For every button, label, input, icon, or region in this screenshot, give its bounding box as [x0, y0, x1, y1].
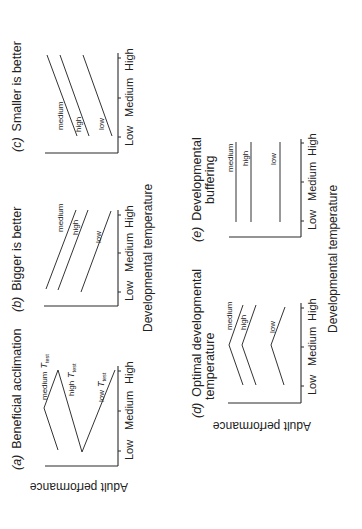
- panel-e-title-line2: buffering: [203, 156, 217, 204]
- tick-label-high: High: [123, 361, 135, 384]
- series-label-medium: medium: [226, 143, 235, 172]
- panel-c: (c)Smaller is better Low Medium High med…: [10, 41, 135, 153]
- panel-b-title: (b)Bigger is better: [10, 207, 24, 312]
- panel-b-line-low: [81, 211, 111, 292]
- adult-performance-label: Adult performance: [30, 480, 128, 494]
- series-label-medium: medium: [56, 203, 65, 232]
- panel-d: (d)Optimal developmental temperature Low…: [190, 269, 318, 433]
- series-label-low-ttest: lowTtest: [96, 372, 107, 402]
- tick-label-medium: Medium: [306, 327, 318, 366]
- panel-d-title-line1: (d)Optimal developmental: [190, 269, 204, 418]
- series-label-low: low: [269, 153, 278, 165]
- panel-d-line-low: [271, 307, 285, 385]
- adult-performance-label: Adult performance: [213, 419, 311, 433]
- tick-label-medium: Medium: [123, 391, 135, 430]
- series-label-high: high: [74, 117, 83, 132]
- tick-label-high: High: [123, 205, 135, 228]
- tick-label-high: High: [306, 298, 318, 321]
- series-label-medium-ttest: mediumTtest: [39, 354, 50, 400]
- tick-label-low: Low: [306, 210, 318, 230]
- tick-label-low: Low: [123, 440, 135, 460]
- tick-label-high: High: [306, 133, 318, 156]
- panel-a-title: (a)Beneficial acclimation: [10, 328, 24, 470]
- panel-b: (b)Bigger is better Low Medium High medi…: [10, 184, 155, 332]
- series-label-high: high: [241, 151, 250, 166]
- tick-label-medium: Medium: [123, 78, 135, 117]
- series-label-high: high: [71, 220, 80, 235]
- tick-label-medium: Medium: [123, 233, 135, 272]
- tick-label-low: Low: [306, 375, 318, 395]
- tick-label-low: Low: [123, 126, 135, 146]
- series-label-low: low: [94, 231, 103, 243]
- developmental-temperature-label: Developmental temperature: [326, 185, 340, 333]
- series-label-medium: medium: [56, 101, 65, 130]
- tick-label-high: High: [123, 48, 135, 71]
- series-label-high-ttest: highTtest: [66, 363, 77, 396]
- developmental-temperature-label: Developmental temperature: [141, 184, 155, 332]
- panel-c-title: (c)Smaller is better: [10, 41, 24, 152]
- series-label-low: low: [268, 321, 277, 333]
- panel-a: (a)Beneficial acclimation Low Medium Hig…: [10, 328, 135, 494]
- thermal-acclimation-figure: (a)Beneficial acclimation Low Medium Hig…: [0, 0, 362, 529]
- series-label-medium: medium: [225, 301, 234, 330]
- panel-e-title-line1: (e)Developmental: [190, 137, 204, 242]
- panel-d-title-line2: temperature: [203, 333, 217, 400]
- series-label-low: low: [97, 118, 106, 130]
- tick-label-low: Low: [123, 281, 135, 301]
- series-label-high: high: [239, 315, 248, 330]
- tick-label-medium: Medium: [306, 162, 318, 201]
